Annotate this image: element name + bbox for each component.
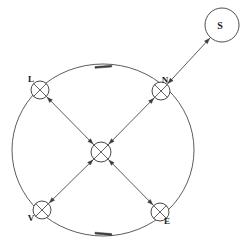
direction-arrow-bottom-icon <box>95 232 112 235</box>
node-c[interactable] <box>91 142 111 162</box>
node-label-n: N <box>162 75 169 85</box>
node-v[interactable]: V <box>28 201 51 223</box>
edges-group <box>40 25 222 212</box>
node-e[interactable]: E <box>151 203 170 226</box>
node-label-l: L <box>28 74 34 84</box>
network-diagram: LNVE S <box>0 0 250 249</box>
direction-arrow-top-icon <box>95 65 112 68</box>
node-label-v: V <box>28 213 35 223</box>
satellite-node-s[interactable]: S <box>205 8 239 42</box>
node-l[interactable]: L <box>28 74 49 99</box>
satellite-label: S <box>217 20 223 31</box>
node-label-e: E <box>164 216 170 226</box>
diagram-canvas: LNVE S <box>0 0 250 249</box>
